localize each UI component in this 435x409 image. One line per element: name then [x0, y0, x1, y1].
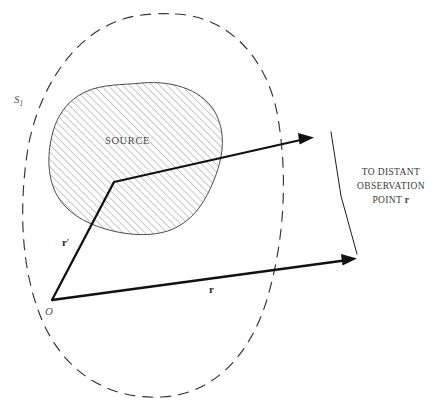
wave-source-vector-diagram: S1 SOURCE O r′ r TO DISTANT OBSERVATION …	[0, 0, 435, 409]
surface-label: S1	[14, 93, 23, 109]
field-vector-r-arrow	[52, 254, 357, 300]
source-label: SOURCE	[105, 134, 150, 147]
observation-caption-line-3: POINT r	[357, 194, 425, 208]
observation-caption-line-2: OBSERVATION	[357, 180, 425, 194]
observation-point-caption: TO DISTANT OBSERVATION POINT r	[357, 166, 425, 207]
field-vector-label: r	[209, 283, 214, 297]
source-region	[49, 83, 222, 235]
observation-bracket	[331, 132, 357, 254]
observation-caption-line-1: TO DISTANT	[357, 166, 425, 180]
origin-label: O	[45, 305, 53, 319]
source-blob-outline	[49, 83, 222, 235]
source-vector-label: r′	[62, 236, 69, 250]
